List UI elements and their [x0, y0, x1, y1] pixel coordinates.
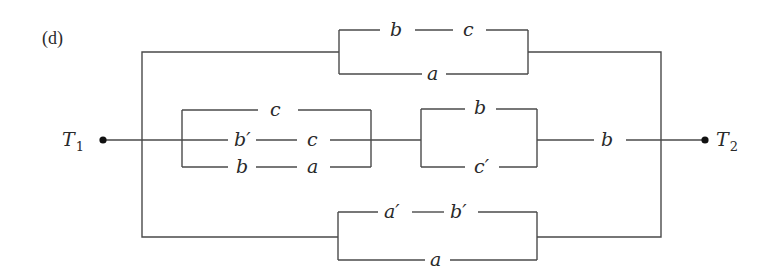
terminal-name: T: [62, 128, 76, 150]
switch-label: c: [270, 98, 281, 120]
terminal-dot-icon: [99, 136, 106, 143]
switch-label: b: [474, 96, 486, 118]
switching-circuit-diagram: (d) b c a c b′ c: [0, 0, 771, 280]
bottom-parallel-block: a′ b′ a: [338, 200, 537, 270]
center-parallel-block: b c′: [421, 96, 537, 177]
switch-label: a: [427, 62, 438, 84]
series-switch-label: b: [601, 128, 613, 150]
switch-label: b′: [450, 200, 467, 222]
left-parallel-block: c b′ c b a: [182, 98, 371, 177]
figure-tag: (d): [42, 28, 63, 49]
switch-label: a′: [384, 200, 400, 222]
switch-label: b′: [234, 128, 251, 150]
switch-label: a: [430, 248, 441, 270]
terminal-dot-icon: [701, 136, 708, 143]
terminal-t1: T1: [62, 128, 107, 154]
switch-label: c: [307, 128, 318, 150]
switch-label: c: [463, 18, 474, 40]
switch-label: b: [236, 155, 248, 177]
switch-label: a: [307, 155, 318, 177]
terminal-subscript: 2: [730, 139, 738, 154]
outer-rails: [142, 52, 661, 237]
svg-text:T2: T2: [716, 128, 738, 154]
top-parallel-block: b c a: [339, 18, 528, 84]
switch-label: c′: [474, 155, 490, 177]
terminal-subscript: 1: [76, 139, 84, 154]
svg-text:T1: T1: [62, 128, 84, 154]
terminal-name: T: [716, 128, 730, 150]
circuit-svg: (d) b c a c b′ c: [0, 0, 771, 280]
terminal-t2: T2: [701, 128, 738, 154]
switch-label: b: [390, 18, 402, 40]
